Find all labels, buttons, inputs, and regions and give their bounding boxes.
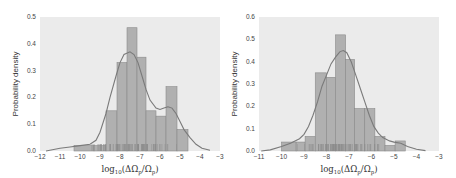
y-tick-label: 0.4 <box>27 40 36 47</box>
x-tick-label: −8 <box>323 153 331 160</box>
y-tick-label: 0.1 <box>246 125 255 132</box>
x-axis: −12−11−10−9−8−7−6−5−4−3 <box>34 153 224 160</box>
x-tick-label: −9 <box>300 153 308 160</box>
histogram-bar <box>315 73 326 151</box>
histogram-bar <box>117 63 127 151</box>
y-axis-label: Probability density <box>11 52 20 117</box>
x-tick-label: −5 <box>176 153 184 160</box>
x-tick-label: −7 <box>345 153 353 160</box>
x-tick-label: −8 <box>116 153 124 160</box>
y-tick-label: 0.2 <box>27 93 36 100</box>
x-axis: −11−10−9−8−7−6−5−4−3 <box>254 153 443 160</box>
x-tick-label: −11 <box>254 153 265 160</box>
y-tick-label: 0.3 <box>246 80 255 87</box>
histogram-bar <box>106 111 117 151</box>
right-histogram-chart: −11−10−9−8−7−6−5−4−30.00.10.20.30.40.50.… <box>228 0 456 178</box>
left-histogram-svg: −12−11−10−9−8−7−6−5−4−30.00.10.20.30.40.… <box>0 0 228 178</box>
x-tick-label: −6 <box>368 153 376 160</box>
histogram-bar <box>375 136 385 151</box>
y-tick-label: 0.5 <box>246 35 255 42</box>
histogram-bar <box>385 145 395 151</box>
histogram-bar <box>327 77 336 151</box>
x-tick-label: −5 <box>390 153 398 160</box>
histogram-bar <box>166 87 177 151</box>
histogram-bar <box>336 35 346 151</box>
histogram-bar <box>127 28 137 151</box>
y-tick-label: 0.2 <box>246 102 255 109</box>
y-axis: 0.00.10.20.30.40.50.6 <box>246 13 255 154</box>
left-histogram-chart: −12−11−10−9−8−7−6−5−4−30.00.10.20.30.40.… <box>0 0 228 178</box>
y-tick-label: 0.1 <box>27 120 36 127</box>
x-tick-label: −3 <box>216 153 224 160</box>
right-histogram-svg: −11−10−9−8−7−6−5−4−30.00.10.20.30.40.50.… <box>228 0 456 178</box>
y-tick-label: 0.6 <box>246 13 255 20</box>
x-tick-label: −12 <box>34 153 45 160</box>
y-tick-label: 0.0 <box>246 147 255 154</box>
histogram-bar <box>137 57 146 151</box>
y-axis-label: Probability density <box>230 52 239 117</box>
x-tick-label: −4 <box>196 153 204 160</box>
y-axis: 0.00.10.20.30.40.5 <box>27 13 36 154</box>
x-tick-label: −7 <box>136 153 144 160</box>
y-tick-label: 0.0 <box>27 147 36 154</box>
x-tick-label: −11 <box>55 153 66 160</box>
y-tick-label: 0.3 <box>27 67 36 74</box>
y-tick-label: 0.4 <box>246 58 255 65</box>
x-tick-label: −4 <box>413 153 421 160</box>
x-tick-label: −10 <box>276 153 287 160</box>
histogram-bar <box>94 146 106 151</box>
y-tick-label: 0.5 <box>27 13 36 20</box>
x-tick-label: −10 <box>74 153 85 160</box>
x-tick-label: −9 <box>96 153 104 160</box>
x-tick-label: −3 <box>435 153 443 160</box>
histogram-bar <box>346 59 355 151</box>
x-axis-label: log10(ΔΩp/Ωp) <box>320 164 377 176</box>
x-axis-label: log10(ΔΩp/Ωp) <box>101 164 158 176</box>
x-tick-label: −6 <box>156 153 164 160</box>
